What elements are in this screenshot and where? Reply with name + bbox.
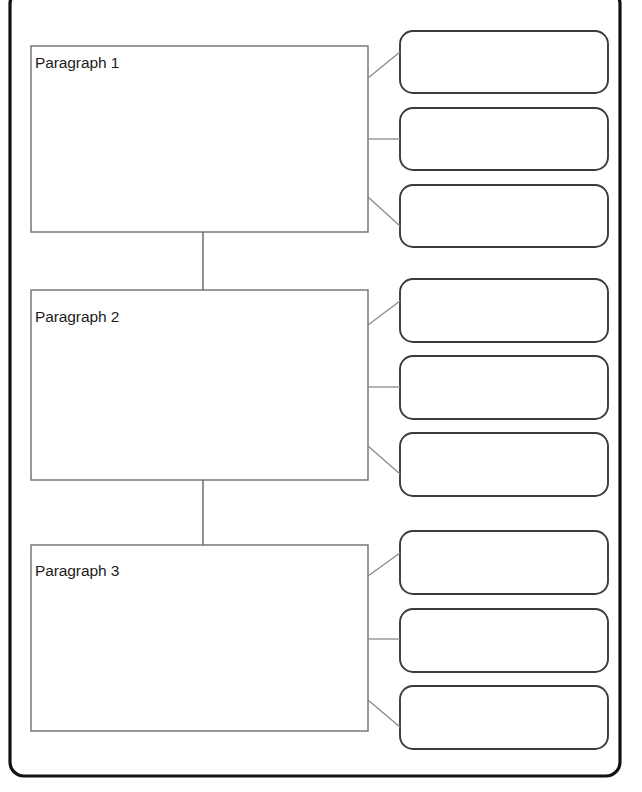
connector-3-3 — [368, 700, 400, 727]
connector-2-1 — [368, 301, 400, 325]
detail-box-2-1[interactable] — [400, 279, 608, 342]
connector-1-1 — [368, 52, 400, 78]
main-box-paragraph-1-label: Paragraph 1 — [35, 55, 119, 71]
organizer-diagram — [0, 0, 642, 792]
main-box-paragraph-1[interactable] — [31, 46, 368, 232]
worksheet-page: Paragraph 1 Paragraph 2 Paragraph 3 — [0, 0, 642, 792]
detail-box-2-2[interactable] — [400, 356, 608, 419]
main-box-paragraph-2-label: Paragraph 2 — [35, 309, 119, 325]
detail-box-3-2[interactable] — [400, 609, 608, 672]
detail-box-3-1[interactable] — [400, 531, 608, 594]
detail-box-3-3[interactable] — [400, 686, 608, 749]
main-box-paragraph-3-label: Paragraph 3 — [35, 563, 119, 579]
detail-box-1-2[interactable] — [400, 108, 608, 170]
detail-box-1-1[interactable] — [400, 31, 608, 93]
detail-box-2-3[interactable] — [400, 433, 608, 496]
connector-2-3 — [368, 446, 400, 474]
detail-box-1-3[interactable] — [400, 185, 608, 247]
connector-1-3 — [368, 197, 400, 226]
connector-3-1 — [368, 553, 400, 576]
